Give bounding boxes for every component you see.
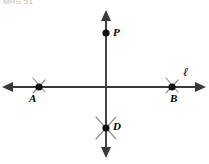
point-b-dot — [168, 83, 175, 90]
right-arrowhead-icon — [195, 82, 206, 92]
point-d-dot — [102, 124, 109, 131]
point-p-label: P — [113, 27, 120, 38]
point-a-label: A — [29, 93, 36, 104]
geometry-figure: MRS 51 P A B D ℓ — [0, 0, 209, 164]
down-arrowhead-icon — [101, 147, 111, 158]
point-a-dot — [35, 83, 42, 90]
figure-canvas — [0, 0, 209, 164]
left-arrowhead-icon — [2, 82, 13, 92]
line-l-label: ℓ — [183, 66, 188, 78]
up-arrowhead-icon — [101, 10, 111, 21]
point-b-label: B — [170, 93, 177, 104]
point-p-dot — [102, 29, 109, 36]
point-d-label: D — [113, 121, 121, 132]
